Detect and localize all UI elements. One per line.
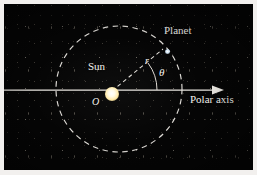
origin-label: O [92,97,99,107]
radius-label: r [145,56,149,66]
angle-arc [148,63,157,90]
polar-axis-label: Polar axis [190,94,234,105]
figure-container: Planet Sun Polar axis r θ O [0,0,257,175]
radius-line [112,49,163,91]
diagram-frame: Planet Sun Polar axis r θ O [4,4,253,170]
orbit-circle [56,26,182,152]
angle-label: θ [159,67,164,78]
planet-label: Planet [164,25,192,36]
diagram-vector-layer [4,4,253,170]
sun-label: Sun [88,61,105,72]
